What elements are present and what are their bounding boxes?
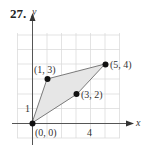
coordinate-plot: (0, 0) (1, 3) (5, 4) (3, 2) 4 1 x y	[0, 0, 142, 152]
x-axis-arrow-icon	[126, 121, 134, 127]
svg-text:4: 4	[87, 127, 92, 138]
svg-text:x: x	[135, 117, 141, 128]
svg-text:(5, 4): (5, 4)	[110, 59, 132, 71]
svg-text:1: 1	[25, 103, 30, 114]
svg-text:(0, 0): (0, 0)	[35, 127, 57, 139]
svg-text:(1, 3): (1, 3)	[34, 64, 56, 76]
svg-text:y: y	[31, 6, 37, 17]
svg-text:(3, 2): (3, 2)	[81, 89, 103, 101]
